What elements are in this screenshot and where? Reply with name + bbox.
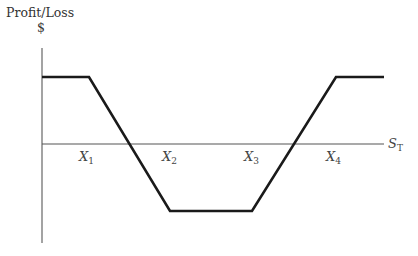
- tick-x2: X2: [162, 149, 177, 166]
- tick-x1: X1: [79, 149, 94, 166]
- payoff-chart: [0, 0, 418, 256]
- tick-x4: X4: [326, 149, 341, 166]
- x-axis-label: ST: [388, 136, 403, 153]
- y-axis-label: Profit/Loss: [6, 5, 74, 20]
- y-axis-unit: $: [37, 20, 45, 35]
- tick-x3: X3: [244, 149, 259, 166]
